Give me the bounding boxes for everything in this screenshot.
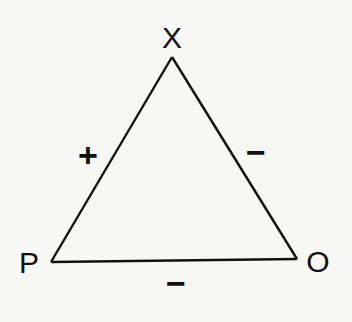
vertex-label-o: O xyxy=(306,247,329,277)
vertex-label-x: X xyxy=(162,23,182,53)
edge-sign-p-o: − xyxy=(166,266,186,300)
edge-sign-x-o: − xyxy=(246,135,266,169)
edge-p-o xyxy=(51,259,297,262)
edge-sign-p-x: + xyxy=(78,138,98,172)
vertex-label-p: P xyxy=(19,248,39,278)
edge-p-x xyxy=(51,57,172,262)
edge-x-o xyxy=(172,57,297,259)
